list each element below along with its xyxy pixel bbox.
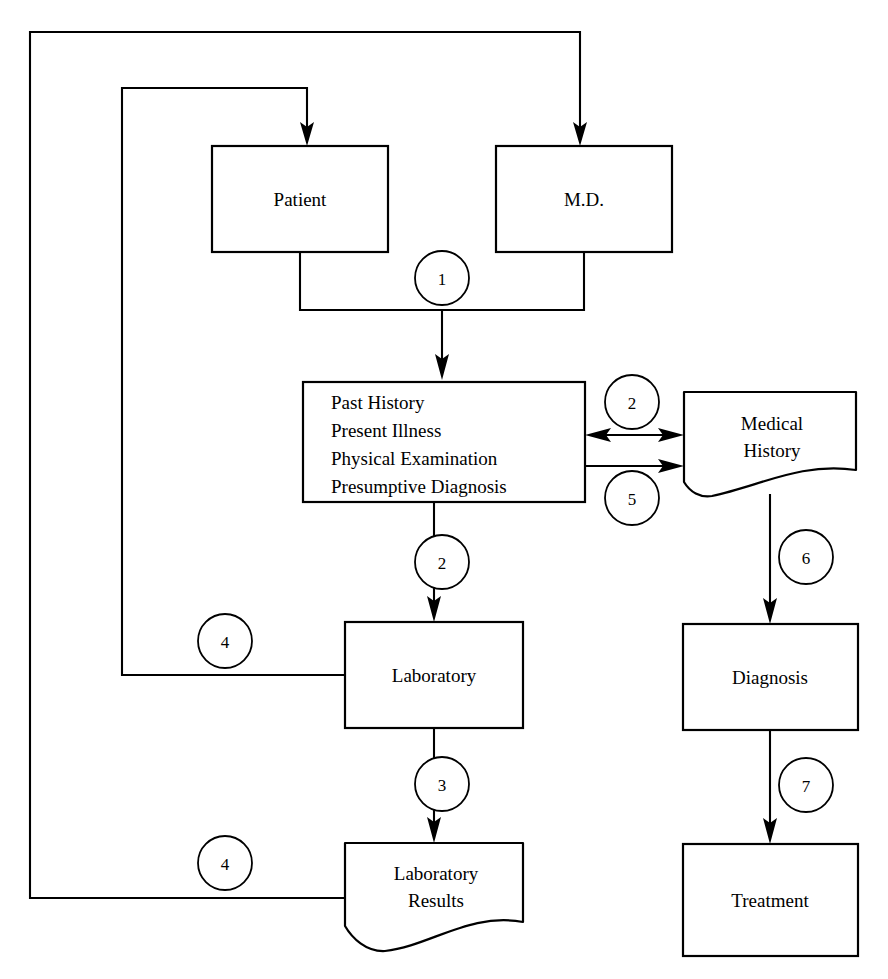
node-medical-history[interactable]: Medical History	[684, 392, 856, 496]
laboratory-results-line-1: Laboratory	[394, 863, 479, 884]
patient-label: Patient	[274, 189, 327, 210]
treatment-label: Treatment	[731, 890, 809, 911]
step-marker-7-label: 7	[802, 777, 811, 796]
clinical-record-line-4: Presumptive Diagnosis	[331, 476, 507, 497]
connector-record-medical-history-bidirectional	[585, 428, 684, 442]
flowchart-diagram: Patient M.D. Past History Present Illnes…	[0, 0, 888, 979]
step-marker-1-label: 1	[438, 270, 447, 289]
step-marker-3: 3	[415, 757, 469, 811]
step-marker-2-history-label: 2	[628, 394, 637, 413]
step-marker-5-label: 5	[628, 490, 637, 509]
flowchart-canvas: Patient M.D. Past History Present Illnes…	[0, 0, 888, 979]
step-marker-2-history: 2	[605, 375, 659, 429]
md-label: M.D.	[564, 189, 604, 210]
step-marker-4-lab-label: 4	[221, 633, 230, 652]
node-md[interactable]: M.D.	[496, 146, 672, 252]
node-clinical-record[interactable]: Past History Present Illness Physical Ex…	[303, 382, 585, 502]
clinical-record-line-3: Physical Examination	[331, 448, 498, 469]
medical-history-line-2: History	[744, 440, 802, 461]
node-patient[interactable]: Patient	[212, 146, 388, 252]
node-laboratory[interactable]: Laboratory	[345, 622, 523, 728]
step-marker-2-lab: 2	[415, 535, 469, 589]
step-marker-4-results-label: 4	[221, 855, 230, 874]
step-marker-5: 5	[605, 471, 659, 525]
step-marker-4-lab: 4	[198, 614, 252, 668]
node-laboratory-results[interactable]: Laboratory Results	[345, 843, 523, 951]
laboratory-label: Laboratory	[392, 665, 477, 686]
step-marker-3-label: 3	[438, 776, 447, 795]
diagnosis-label: Diagnosis	[732, 667, 808, 688]
laboratory-results-line-2: Results	[408, 890, 464, 911]
step-marker-1: 1	[415, 251, 469, 305]
clinical-record-line-2: Present Illness	[331, 420, 441, 441]
step-marker-7: 7	[779, 758, 833, 812]
step-marker-2-lab-label: 2	[438, 554, 447, 573]
clinical-record-line-1: Past History	[331, 392, 425, 413]
connector-diagnosis-to-treatment	[763, 730, 777, 844]
step-marker-4-results: 4	[198, 836, 252, 890]
node-treatment[interactable]: Treatment	[683, 844, 858, 956]
connector-medical-history-to-diagnosis	[763, 494, 777, 624]
step-marker-6-label: 6	[802, 549, 811, 568]
node-diagnosis[interactable]: Diagnosis	[683, 624, 858, 730]
step-marker-6: 6	[779, 530, 833, 584]
medical-history-line-1: Medical	[741, 413, 803, 434]
